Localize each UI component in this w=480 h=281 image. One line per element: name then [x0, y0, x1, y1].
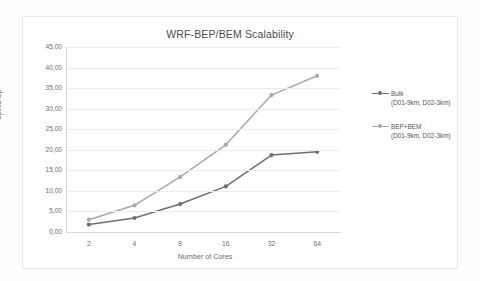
x-tick-label: 64 [297, 240, 337, 247]
y-tick-label: 10,00 [16, 187, 62, 194]
y-tick-label: 30,00 [16, 105, 62, 112]
gridline [66, 47, 340, 48]
data-point-marker [87, 223, 91, 227]
series-line [89, 76, 317, 220]
gridline [66, 170, 340, 171]
gridline [66, 68, 340, 69]
legend-marker-icon [372, 90, 389, 97]
x-tick-label: 16 [206, 240, 246, 247]
chart-plot-wrapper: WRF-BEP/BEM Scalability 0,005,0010,0015,… [0, 0, 480, 281]
gridline [66, 129, 340, 130]
data-point-marker [132, 216, 136, 220]
y-tick-label: 25,00 [16, 125, 62, 132]
gridline [66, 109, 340, 110]
gridline [66, 150, 340, 151]
x-axis-label: Number of Cores [140, 252, 270, 261]
series-plot [66, 47, 340, 232]
x-tick-label: 32 [252, 240, 292, 247]
legend-item-row: Bulk [372, 90, 464, 97]
y-tick-label: 20,00 [16, 146, 62, 153]
chart-legend: Bulk(D01-9km, D02-3km)BEP+BEM(D01-9km, D… [372, 90, 464, 156]
gridline [66, 88, 340, 89]
legend-item[interactable]: BEP+BEM(D01-9km, D02-3km) [372, 123, 464, 139]
y-tick-label: 40,00 [16, 64, 62, 71]
legend-item-label: BEP+BEM [391, 123, 421, 130]
legend-item-row: BEP+BEM [372, 123, 464, 130]
data-point-marker [87, 218, 91, 222]
chart-title: WRF-BEP/BEM Scalability [120, 28, 340, 40]
legend-item-sublabel: (D01-9km, D02-3km) [391, 99, 464, 106]
x-tick-label: 8 [160, 240, 200, 247]
y-tick-label: 0,00 [16, 228, 62, 235]
data-point-marker [269, 93, 273, 97]
legend-item-label: Bulk [391, 90, 403, 97]
legend-item-sublabel: (D01-9km, D02-3km) [391, 132, 464, 139]
legend-item[interactable]: Bulk(D01-9km, D02-3km) [372, 90, 464, 106]
series-line [89, 152, 317, 225]
gridline [66, 211, 340, 212]
y-tick-label: 5,00 [16, 207, 62, 214]
data-point-marker [269, 153, 273, 157]
data-point-marker [315, 74, 319, 78]
data-point-marker [224, 184, 228, 188]
y-axis-label: Speed Up [0, 90, 2, 120]
figure-canvas: WRF-BEP/BEM Scalability 0,005,0010,0015,… [0, 0, 480, 281]
data-point-marker [178, 202, 182, 206]
data-point-marker [224, 143, 228, 147]
y-tick-label: 35,00 [16, 84, 62, 91]
y-axis-line [66, 47, 67, 233]
x-axis-line [66, 232, 341, 233]
y-tick-label: 15,00 [16, 166, 62, 173]
plot-area [66, 47, 340, 232]
data-point-marker [132, 203, 136, 207]
legend-marker-icon [372, 123, 389, 130]
data-point-marker [178, 175, 182, 179]
y-tick-label: 45,00 [16, 43, 62, 50]
gridline [66, 191, 340, 192]
x-tick-label: 2 [69, 240, 109, 247]
x-tick-label: 4 [115, 240, 155, 247]
